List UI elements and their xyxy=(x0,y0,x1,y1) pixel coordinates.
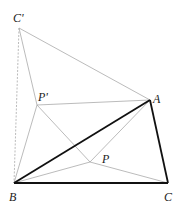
label-a: A xyxy=(152,92,161,106)
label-p: P xyxy=(101,152,110,166)
label-c-prime: C' xyxy=(13,11,24,25)
label-b: B xyxy=(9,190,17,204)
segment-c-prime-b xyxy=(14,28,19,183)
segment-a-c xyxy=(150,100,168,183)
segment-c-prime-p-prime xyxy=(19,28,37,105)
geometry-diagram: C' A P' P B C xyxy=(0,0,179,210)
label-c: C xyxy=(164,190,173,204)
label-p-prime: P' xyxy=(37,90,48,104)
segment-p-prime-a xyxy=(37,100,150,105)
segment-p-b xyxy=(14,162,90,183)
